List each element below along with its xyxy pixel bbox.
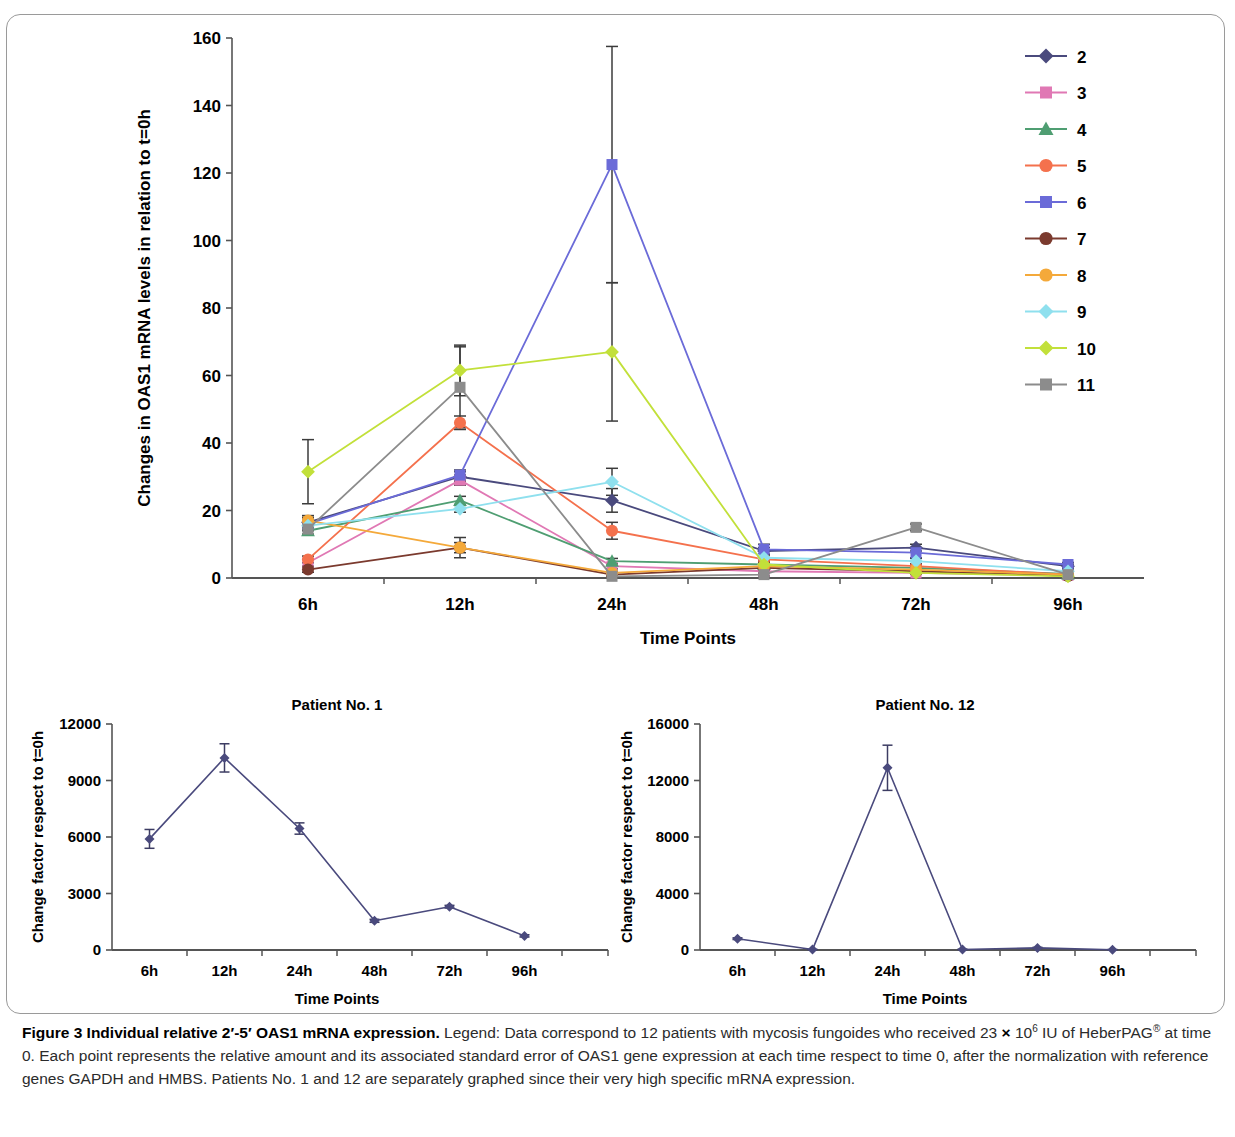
data-point: [605, 345, 619, 359]
caption-text-a: Legend: Data correspond to 12 patients w…: [440, 1024, 1002, 1041]
data-point: [520, 931, 530, 941]
y-tick-label: 0: [93, 941, 101, 958]
data-point: [455, 470, 466, 481]
legend-marker-diamond-icon: [1039, 304, 1054, 319]
caption-text-c: IU of HeberPAG: [1038, 1024, 1153, 1041]
y-tick-label: 0: [681, 941, 689, 958]
data-point: [301, 465, 315, 479]
error-bars-series-11: [302, 347, 1074, 578]
y-tick-label: 6000: [68, 828, 101, 845]
series-line: [308, 480, 1068, 575]
legend-item-11[interactable]: 11: [1025, 376, 1095, 395]
legend-marker-diamond-icon: [1039, 341, 1054, 356]
y-tick-label: 160: [193, 29, 221, 48]
x-tick-label: 72h: [1025, 962, 1051, 979]
y-tick-label: 3000: [68, 885, 101, 902]
error-bars-series-Patient No. 1: [145, 744, 530, 937]
y-axis-title: Change factor respect to t=0h: [618, 731, 635, 943]
x-tick-label: 96h: [1100, 962, 1126, 979]
legend-marker-square-icon: [1040, 87, 1052, 99]
legend-marker-circle-icon: [1039, 232, 1052, 245]
data-point: [606, 525, 618, 537]
legend-item-6[interactable]: 6: [1025, 194, 1086, 213]
legend-item-2[interactable]: 2: [1025, 48, 1086, 67]
legend-label: 7: [1077, 230, 1086, 249]
error-bars-series-Patient No. 12: [733, 745, 1118, 950]
data-point: [605, 475, 619, 489]
legend-marker-circle-icon: [1039, 159, 1052, 172]
data-point: [808, 945, 818, 955]
x-tick-label: 12h: [800, 962, 826, 979]
legend-label: 3: [1077, 84, 1086, 103]
caption-title: Figure 3 Individual relative 2′-5′ OAS1 …: [22, 1024, 440, 1041]
x-tick-label: 24h: [597, 595, 626, 614]
x-tick-label: 24h: [875, 962, 901, 979]
x-tick-label: 12h: [212, 962, 238, 979]
caption-times-symbol: ×: [1002, 1024, 1011, 1041]
data-point: [1033, 943, 1043, 953]
legend-label: 5: [1077, 157, 1086, 176]
series-10: [301, 345, 1075, 583]
y-tick-label: 4000: [656, 885, 689, 902]
legend-marker-square-icon: [1040, 379, 1052, 391]
series-line: [308, 521, 1068, 575]
y-tick-label: 40: [202, 434, 221, 453]
y-tick-label: 0: [212, 569, 221, 588]
series-line: [308, 165, 1068, 565]
data-point: [607, 571, 618, 582]
legend-item-10[interactable]: 10: [1025, 340, 1096, 359]
error-bars-series-10: [302, 283, 1074, 578]
data-point: [1108, 945, 1118, 955]
x-tick-label: 96h: [512, 962, 538, 979]
y-tick-label: 8000: [656, 828, 689, 845]
legend-item-8[interactable]: 8: [1025, 267, 1086, 286]
series-line: [738, 768, 1113, 950]
y-tick-label: 12000: [647, 772, 689, 789]
legend-label: 8: [1077, 267, 1086, 286]
legend-label: 2: [1077, 48, 1086, 67]
x-tick-label: 6h: [141, 962, 159, 979]
data-point: [1063, 569, 1074, 580]
y-tick-label: 140: [193, 97, 221, 116]
data-point: [455, 382, 466, 393]
legend-label: 9: [1077, 303, 1086, 322]
chart-patient1: 0300060009000120006h12h24h48h72h96hTime …: [29, 696, 608, 1007]
x-tick-label: 72h: [901, 595, 930, 614]
x-tick-label: 48h: [950, 962, 976, 979]
y-axis-title: Change factor respect to t=0h: [29, 731, 46, 943]
data-point: [454, 417, 466, 429]
y-axis-title: Changes in OAS1 mRNA levels in relation …: [135, 109, 154, 507]
series-line: [308, 352, 1068, 576]
x-tick-label: 6h: [298, 595, 318, 614]
legend-marker-square-icon: [1040, 196, 1052, 208]
series-line: [308, 387, 1068, 576]
legend-item-3[interactable]: 3: [1025, 84, 1086, 103]
data-point: [303, 524, 314, 535]
x-tick-label: 48h: [749, 595, 778, 614]
x-tick-label: 12h: [445, 595, 474, 614]
legend: 234567891011: [1025, 48, 1096, 396]
legend-marker-circle-icon: [1039, 268, 1052, 281]
data-point: [453, 364, 467, 378]
data-point: [759, 569, 770, 580]
legend-item-9[interactable]: 9: [1025, 303, 1086, 322]
caption-text-b: 10: [1011, 1024, 1033, 1041]
legend-item-5[interactable]: 5: [1025, 157, 1086, 176]
x-tick-label: 48h: [362, 962, 388, 979]
series-Patient No. 1: [145, 753, 530, 941]
data-point: [958, 944, 968, 954]
legend-label: 10: [1077, 340, 1096, 359]
y-tick-label: 9000: [68, 772, 101, 789]
y-tick-label: 20: [202, 502, 221, 521]
x-axis-title: Time Points: [640, 629, 736, 648]
data-point: [302, 564, 314, 576]
legend-item-4[interactable]: 4: [1025, 121, 1087, 140]
y-tick-label: 80: [202, 299, 221, 318]
figure-canvas: 0204060801001201401606h12h24h48h72h96hTi…: [0, 0, 1235, 1137]
figure-caption: Figure 3 Individual relative 2′-5′ OAS1 …: [22, 1022, 1214, 1091]
y-tick-label: 12000: [59, 715, 101, 732]
series-2: [301, 470, 1075, 573]
legend-item-7[interactable]: 7: [1025, 230, 1086, 249]
x-axis-title: Time Points: [295, 990, 380, 1007]
series-Patient No. 12: [733, 763, 1118, 955]
